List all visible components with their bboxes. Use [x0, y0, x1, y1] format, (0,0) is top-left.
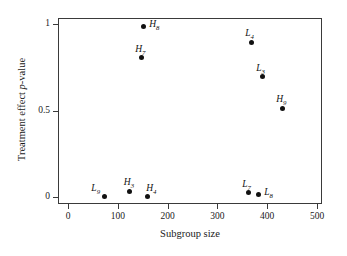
data-point-label: L3: [256, 64, 265, 74]
x-axis-label: Subgroup size: [58, 228, 322, 239]
data-point: [256, 192, 261, 197]
data-point-label: H7: [135, 45, 145, 55]
data-point-label: H9: [276, 95, 286, 105]
data-point-label: L9: [91, 184, 100, 194]
data-point: [145, 194, 150, 199]
data-point-label: H3: [124, 178, 134, 188]
x-tick-mark: [317, 204, 318, 209]
x-tick-label: 400: [247, 211, 287, 221]
y-axis-label-italic: p: [16, 84, 27, 89]
plot-area: H8H7L4L3H9L9H3H4L7L8: [59, 19, 321, 203]
data-point: [246, 190, 251, 195]
x-tick-label: 100: [98, 211, 138, 221]
data-point-label: H8: [149, 20, 159, 30]
data-point-label: L4: [245, 29, 254, 39]
y-axis-label: Treatment effect p-value: [16, 17, 27, 203]
x-tick-label: 300: [197, 211, 237, 221]
y-axis-label-pre: Treatment effect: [16, 89, 27, 161]
data-point-label: L7: [242, 180, 251, 190]
x-tick-mark: [168, 204, 169, 209]
x-tick-mark: [68, 204, 69, 209]
data-point: [127, 189, 132, 194]
scatter-plot-figure: 00.51 0100200300400500 H8H7L4L3H9L9H3H4L…: [0, 0, 347, 256]
x-tick-mark: [217, 204, 218, 209]
x-tick-label: 0: [48, 211, 88, 221]
data-point: [139, 55, 144, 60]
data-point-label: L8: [264, 188, 273, 198]
data-point: [249, 40, 254, 45]
data-point-label: H4: [146, 184, 156, 194]
plot-frame: H8H7L4L3H9L9H3H4L7L8: [58, 18, 322, 204]
data-point: [260, 74, 265, 79]
y-axis-label-post: -value: [16, 58, 27, 84]
data-point: [141, 24, 146, 29]
x-tick-mark: [267, 204, 268, 209]
x-tick-label: 500: [297, 211, 337, 221]
data-point: [102, 194, 107, 199]
x-tick-label: 200: [148, 211, 188, 221]
data-point: [280, 106, 285, 111]
x-tick-mark: [118, 204, 119, 209]
